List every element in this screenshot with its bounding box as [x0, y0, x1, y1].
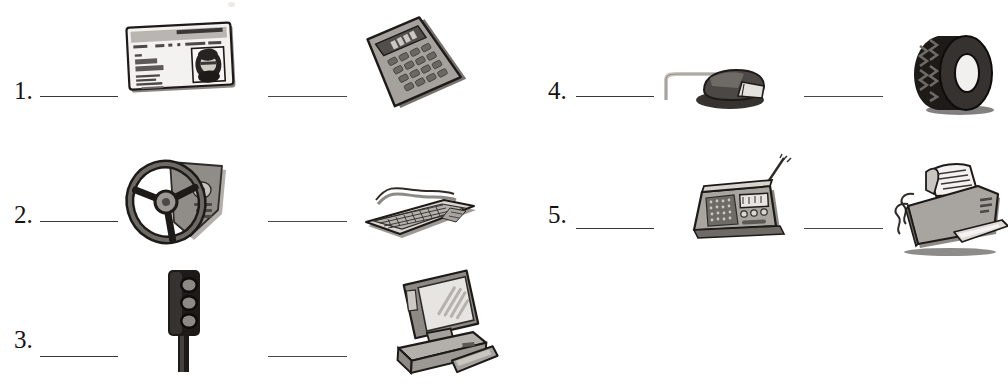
answer-blank-4b[interactable]	[804, 96, 883, 97]
answer-blank-3a[interactable]	[40, 356, 118, 357]
picture-steering-wheel	[122, 156, 240, 252]
answer-blank-4a[interactable]	[576, 96, 654, 97]
item-number-2: 2.	[14, 202, 33, 227]
scan-artifact	[228, 2, 235, 7]
picture-desktop-computer	[374, 266, 498, 382]
picture-computer-mouse	[658, 56, 790, 112]
picture-keyboard	[358, 176, 480, 242]
answer-blank-1a[interactable]	[40, 96, 118, 97]
answer-blank-1b[interactable]	[268, 96, 347, 97]
item-number-1: 1.	[14, 78, 33, 103]
answer-blank-5a[interactable]	[576, 228, 654, 229]
picture-id-card	[126, 22, 238, 94]
picture-radio	[684, 156, 810, 246]
picture-fax-machine	[884, 160, 1008, 256]
item-number-3: 3.	[14, 327, 33, 352]
answer-blank-2a[interactable]	[40, 221, 118, 222]
answer-blank-5b[interactable]	[804, 228, 883, 229]
picture-calculator	[358, 18, 474, 110]
item-number-5: 5.	[548, 202, 567, 227]
picture-tire	[908, 30, 1002, 116]
answer-blank-3b[interactable]	[268, 356, 347, 357]
answer-blank-2b[interactable]	[268, 221, 347, 222]
item-number-4: 4.	[548, 78, 567, 103]
picture-traffic-light	[158, 266, 214, 374]
